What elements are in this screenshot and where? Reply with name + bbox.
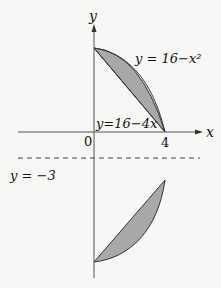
origin-label: 0 [84, 134, 92, 149]
x-axis-label: x [206, 124, 214, 140]
parabola-label: y = 16−x² [134, 51, 201, 66]
y-axis-label: y [88, 8, 98, 24]
diagram-canvas: y x 0 4 y = 16−x² y=16−4x y = −3 [0, 0, 221, 288]
x-tick-4-label: 4 [161, 135, 169, 150]
lower-shaded-region [94, 180, 165, 262]
y-axis-arrow-icon [92, 24, 97, 32]
dashed-line-label: y = −3 [9, 168, 56, 183]
line-label: y=16−4x [95, 116, 158, 131]
x-axis-arrow-icon [195, 130, 203, 135]
